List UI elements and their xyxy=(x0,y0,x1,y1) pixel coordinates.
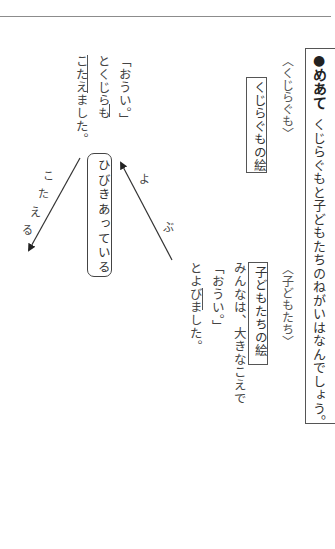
answer-label-ko: こ xyxy=(43,171,54,182)
children-heading: 〈子どもたち〉 xyxy=(280,263,292,347)
answer-label-ta: た xyxy=(38,189,49,200)
children-picture-box: 子どもたちの絵 xyxy=(248,262,268,365)
children-line-3: とよびました。 xyxy=(188,262,201,353)
call-label-yo: よ xyxy=(139,174,150,185)
call-label-bu: ぶ xyxy=(163,222,174,233)
sideline-yobi xyxy=(202,288,203,310)
answer-label-ru: る xyxy=(22,225,33,236)
answer-arrow xyxy=(29,158,80,250)
answer-label-e: え xyxy=(30,207,41,218)
children-line-1: みんなは、大きなこえで xyxy=(232,262,245,405)
children-line-2: 「おうい。」 xyxy=(210,262,223,333)
